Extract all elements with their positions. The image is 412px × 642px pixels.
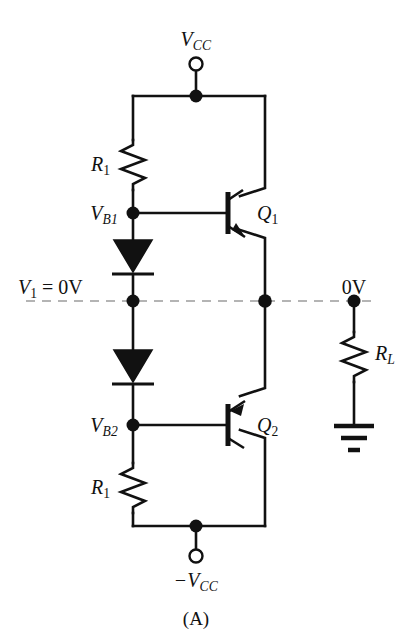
label-q2-subscript: 2: [271, 424, 278, 439]
resistor-r1-bottom-symbol: [121, 463, 145, 513]
circuit-diagram-figure: VCC R1 VB1 Q1 V1 = 0V 0V RL VB2 Q2 R1 −V…: [0, 0, 412, 642]
label-v1-value: = 0V: [37, 276, 83, 298]
diode-d2-symbol: [112, 350, 154, 384]
resistor-rl-symbol: [342, 332, 366, 382]
label-r1-top-base: R: [91, 153, 103, 175]
wire-q1-emitter-to-output: [240, 230, 265, 301]
node-output-dot: [258, 294, 272, 308]
label-vb1: VB1: [90, 203, 118, 227]
label-q1: Q1: [257, 203, 278, 227]
label-vb2-base: V: [90, 414, 102, 436]
label-negative-vcc-base: −V: [174, 569, 200, 591]
schematic-drawing: [0, 0, 412, 642]
wire-q2-collector-to-negrail: [240, 430, 265, 526]
label-negative-vcc: −VCC: [174, 570, 218, 594]
label-q2: Q2: [257, 415, 278, 439]
label-r1-top-subscript: 1: [103, 163, 110, 178]
wire-vcc-to-q1-collector: [240, 96, 265, 196]
ground-symbol: [334, 426, 374, 450]
label-r1-bottom-base: R: [91, 476, 103, 498]
diode-d1-symbol: [112, 240, 154, 274]
label-v1-subscript: 1: [30, 286, 37, 301]
label-vcc-top: VCC: [181, 29, 212, 53]
label-q1-base: Q: [257, 202, 271, 224]
label-rl-subscript: L: [387, 352, 395, 367]
junction-dots: [127, 90, 361, 533]
label-q2-base: Q: [257, 414, 271, 436]
transistor-q2-symbol: [228, 401, 245, 448]
vcc-terminal-circle: [190, 58, 203, 71]
label-q1-subscript: 1: [271, 212, 278, 227]
label-rl: RL: [375, 343, 395, 367]
label-vb2: VB2: [90, 415, 118, 439]
label-rl-base: R: [375, 342, 387, 364]
label-r1-top: R1: [91, 154, 110, 178]
node-neg-rail-dot: [190, 520, 203, 533]
label-negative-vcc-subscript: CC: [200, 579, 219, 594]
node-input-dot: [127, 295, 140, 308]
label-output-zero-volts: 0V: [342, 277, 366, 297]
label-v1-input: V1 = 0V: [18, 277, 83, 301]
label-v1-base: V: [18, 276, 30, 298]
label-vcc-top-base: V: [181, 28, 193, 50]
wire-output-to-q2-emitter: [240, 301, 265, 396]
circuit-wires: [133, 72, 354, 548]
resistor-r1-top-symbol: [121, 140, 145, 190]
node-vb1-dot: [127, 207, 140, 220]
label-vb2-subscript: B2: [102, 424, 118, 439]
figure-caption: (A): [183, 609, 209, 628]
node-vb2-dot: [127, 419, 140, 432]
negative-vcc-terminal-circle: [190, 550, 203, 563]
label-r1-bottom-subscript: 1: [103, 486, 110, 501]
label-vb1-subscript: B1: [102, 212, 118, 227]
label-vb1-base: V: [90, 202, 102, 224]
label-vcc-top-subscript: CC: [193, 38, 212, 53]
label-r1-bottom: R1: [91, 477, 110, 501]
node-vcc-rail-dot: [190, 90, 203, 103]
